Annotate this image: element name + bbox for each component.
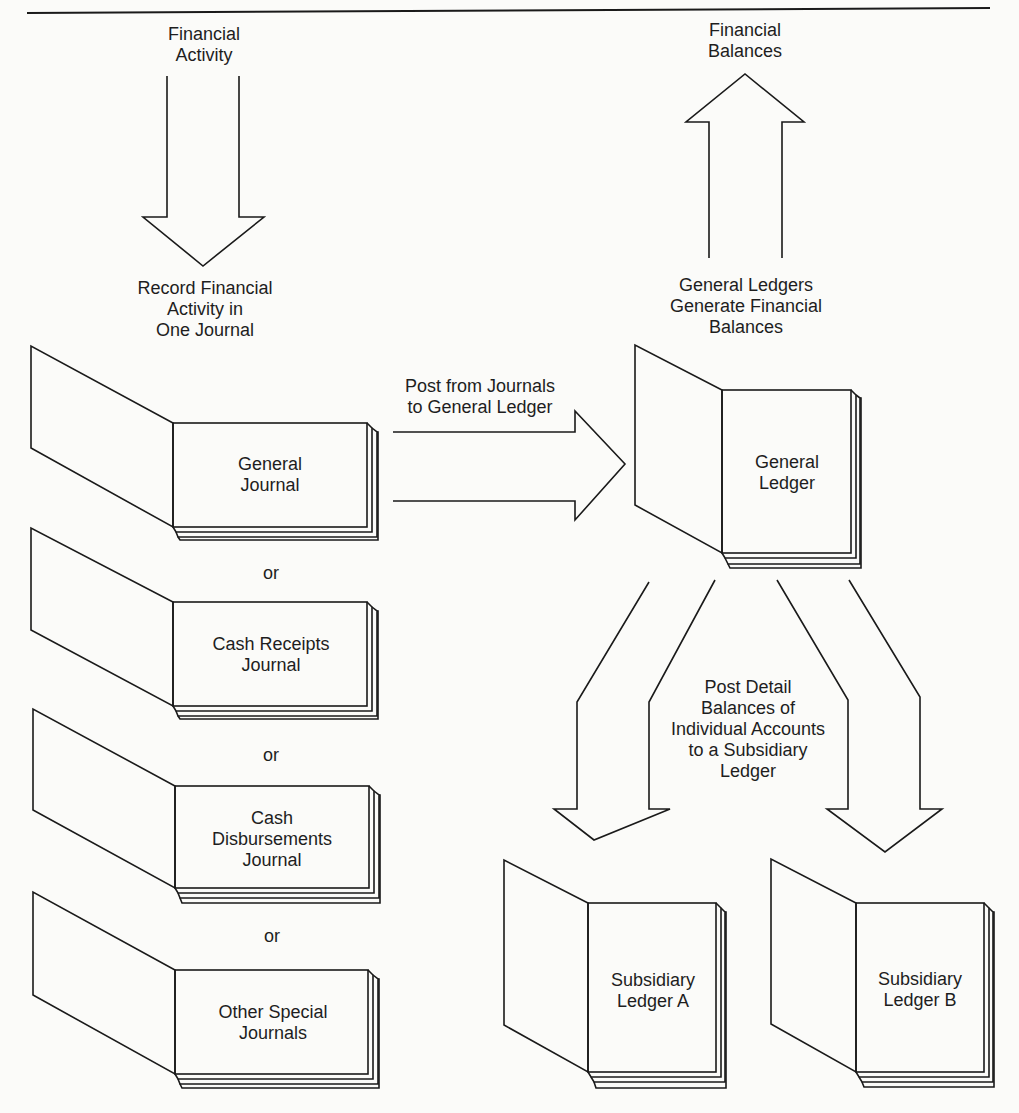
label-general-journal: General Journal [238, 454, 302, 496]
arrow-up-balances-icon [686, 74, 804, 258]
label-other-special-journals: Other Special Journals [218, 1002, 327, 1044]
label-post-to-ledger: Post from Journals to General Ledger [405, 376, 555, 418]
label-line: Post from Journals [405, 376, 555, 397]
label-record-step: Record Financial Activity in One Journal [137, 278, 272, 341]
label-line: Balances [670, 317, 822, 338]
accounting-flow-diagram [0, 0, 1019, 1113]
label-line: Activity in [137, 299, 272, 320]
label-line: Journal [212, 655, 329, 676]
label-line: Cash Receipts [212, 634, 329, 655]
label-subsidiary-ledger-b: Subsidiary Ledger B [878, 969, 962, 1011]
label-line: Record Financial [137, 278, 272, 299]
journal-book-cash-disbursements [33, 709, 380, 903]
journal-book-other-special [33, 892, 379, 1088]
label-line: Activity [168, 45, 240, 66]
label-line: Post Detail [671, 677, 825, 698]
label-line: General [755, 452, 819, 473]
label-general-ledger: General Ledger [755, 452, 819, 494]
label-cash-receipts-journal: Cash Receipts Journal [212, 634, 329, 676]
label-line: Subsidiary [878, 969, 962, 990]
label-financial-activity: Financial Activity [168, 24, 240, 66]
label-line: Balances of [671, 698, 825, 719]
label-line: to a Subsidiary [671, 740, 825, 761]
label-line: Financial [168, 24, 240, 45]
general-ledger-book [635, 345, 861, 568]
label-cash-disbursements-journal: Cash Disbursements Journal [212, 808, 332, 871]
label-financial-balances: Financial Balances [708, 20, 782, 62]
label-line: Subsidiary [611, 970, 695, 991]
label-post-detail: Post Detail Balances of Individual Accou… [671, 677, 825, 782]
label-generate-step: General Ledgers Generate Financial Balan… [670, 275, 822, 338]
journal-book-cash-receipts [31, 528, 378, 719]
label-subsidiary-ledger-a: Subsidiary Ledger A [611, 970, 695, 1012]
separator-or-1: or [263, 563, 279, 584]
label-line: Financial [708, 20, 782, 41]
arrow-right-post-icon [393, 411, 625, 520]
label-line: Cash [212, 808, 332, 829]
label-line: Individual Accounts [671, 719, 825, 740]
label-line: Balances [708, 41, 782, 62]
top-rule [27, 8, 990, 13]
label-line: Journal [212, 850, 332, 871]
label-line: Ledger [671, 761, 825, 782]
label-line: Ledger B [878, 990, 962, 1011]
label-line: to General Ledger [405, 397, 555, 418]
label-line: General Ledgers [670, 275, 822, 296]
label-line: Journals [218, 1023, 327, 1044]
separator-or-2: or [263, 745, 279, 766]
label-line: Ledger [755, 473, 819, 494]
label-line: Ledger A [611, 991, 695, 1012]
label-line: Generate Financial [670, 296, 822, 317]
label-line: Other Special [218, 1002, 327, 1023]
label-line: One Journal [137, 320, 272, 341]
arrow-down-record-icon [143, 76, 264, 266]
journal-book-general [31, 346, 378, 540]
label-line: Disbursements [212, 829, 332, 850]
label-line: Journal [238, 475, 302, 496]
label-line: General [238, 454, 302, 475]
separator-or-3: or [264, 926, 280, 947]
